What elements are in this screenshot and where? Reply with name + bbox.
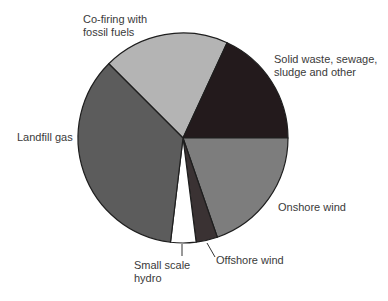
label-solid-waste: Solid waste, sewage, sludge and other [274,53,377,79]
offshore-leader-line [207,243,215,257]
label-small-hydro: Small scale hydro [134,259,190,285]
pie-slices [78,33,288,243]
label-offshore-wind: Offshore wind [216,254,284,267]
label-cofiring: Co-firing with fossil fuels [83,13,147,39]
pie-chart [0,0,388,301]
label-onshore-wind: Onshore wind [278,201,346,214]
label-landfill-gas: Landfill gas [17,131,73,144]
